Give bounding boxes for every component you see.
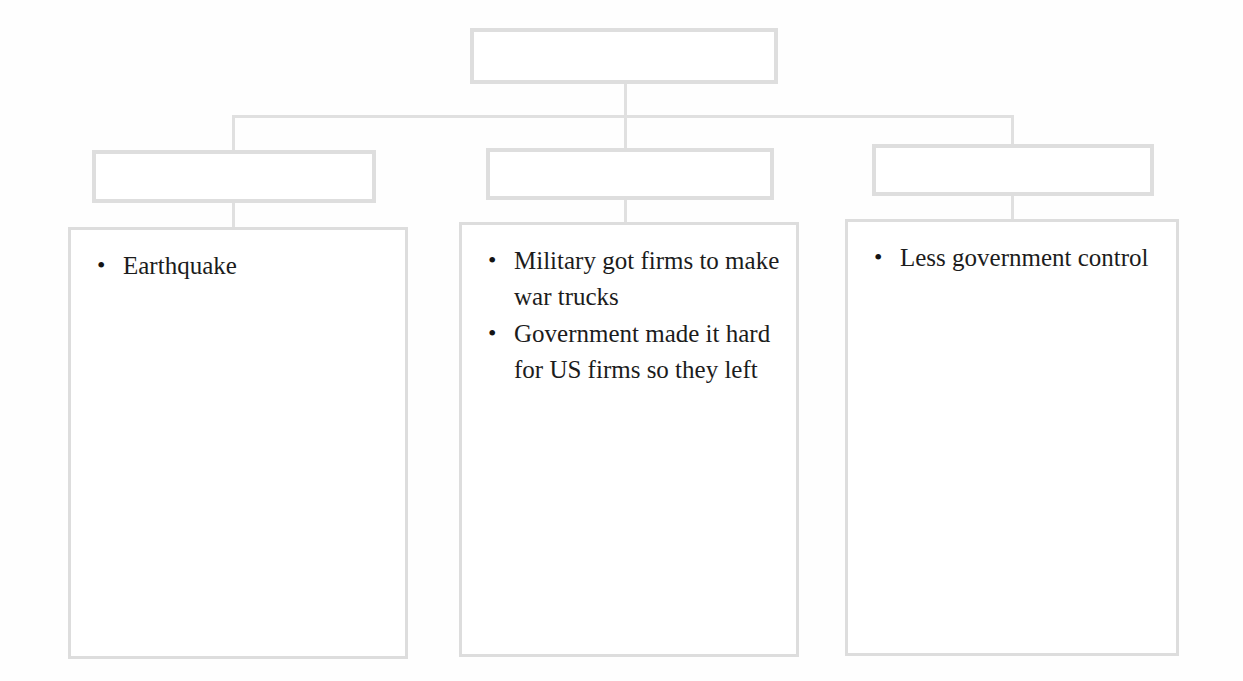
branch-2-header-box[interactable]: [486, 148, 774, 200]
root-node-box[interactable]: [470, 28, 778, 84]
branch-2-content-box[interactable]: Military got firms to make war trucks Go…: [459, 222, 799, 657]
list-item: Less government control: [870, 240, 1160, 276]
list-item: Government made it hard for US firms so …: [484, 316, 780, 387]
connector-root-stem: [624, 84, 627, 117]
diagram-canvas: Earthquake Military got firms to make wa…: [0, 0, 1243, 681]
list-item: Earthquake: [93, 248, 389, 284]
branch-3-header-label: [876, 148, 1150, 168]
branch-1-header-label: [96, 154, 372, 174]
root-node-label: [474, 32, 774, 52]
branch-3-bullet-list: Less government control: [848, 222, 1176, 276]
connector-header-to-body-1: [232, 203, 235, 229]
branch-1-bullet-list: Earthquake: [71, 230, 405, 284]
branch-2-header-label: [490, 152, 770, 172]
branch-3-content-box[interactable]: Less government control: [845, 219, 1179, 656]
branch-3-header-box[interactable]: [872, 144, 1154, 196]
connector-drop-branch-2: [624, 115, 627, 150]
branch-1-content-box[interactable]: Earthquake: [68, 227, 408, 659]
connector-header-to-body-2: [624, 200, 627, 224]
branch-2-bullet-list: Military got firms to make war trucks Go…: [462, 225, 796, 387]
connector-header-to-body-3: [1011, 196, 1014, 221]
connector-drop-branch-1: [232, 115, 235, 152]
connector-horizontal-bus: [232, 115, 1014, 118]
connector-drop-branch-3: [1011, 115, 1014, 146]
list-item: Military got firms to make war trucks: [484, 243, 780, 314]
branch-1-header-box[interactable]: [92, 150, 376, 203]
